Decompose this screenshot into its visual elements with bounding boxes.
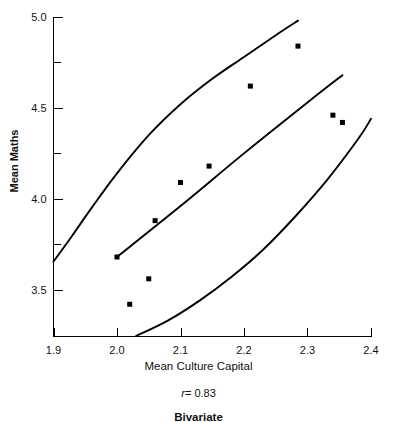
correlation-annotation: r= 0.83	[0, 387, 397, 399]
fitted-curves	[54, 21, 372, 336]
data-point	[146, 276, 151, 281]
scatter-plot-figure: 5.04.54.03.5 1.92.02.12.22.32.4 Mean Mat…	[0, 0, 397, 422]
data-point	[340, 120, 345, 125]
x-tick-label: 2.1	[173, 344, 188, 356]
axes	[53, 17, 371, 337]
figure-caption: Bivariate	[0, 411, 397, 422]
data-point	[115, 255, 120, 260]
data-point	[295, 44, 300, 49]
lower-confidence-band	[136, 119, 371, 336]
y-tick-label: 4.0	[31, 193, 46, 205]
data-point	[207, 164, 212, 169]
data-point	[248, 84, 253, 89]
x-tick-label: 2.0	[109, 344, 124, 356]
x-axis-ticks	[55, 328, 372, 337]
upper-confidence-band	[54, 21, 298, 262]
y-axis-title: Mean Maths	[8, 119, 20, 203]
y-axis-tick-labels: 5.04.54.03.5	[31, 11, 46, 296]
plot-canvas: 5.04.54.03.5 1.92.02.12.22.32.4	[0, 0, 397, 422]
data-point-markers	[115, 44, 345, 307]
x-tick-label: 2.3	[300, 344, 315, 356]
y-tick-label: 3.5	[31, 284, 46, 296]
x-tick-label: 2.4	[363, 344, 378, 356]
regression-line	[117, 75, 342, 257]
x-tick-label: 2.2	[236, 344, 251, 356]
y-tick-label: 4.5	[31, 102, 46, 114]
data-point	[127, 302, 132, 307]
data-point	[153, 218, 158, 223]
x-tick-label: 1.9	[46, 344, 61, 356]
x-axis-title: Mean Culture Capital	[0, 360, 397, 372]
y-tick-label: 5.0	[31, 11, 46, 23]
data-point	[178, 180, 183, 185]
data-point	[330, 113, 335, 118]
correlation-equals: =	[185, 387, 191, 399]
correlation-value: 0.83	[194, 387, 215, 399]
x-axis-tick-labels: 1.92.02.12.22.32.4	[46, 344, 379, 356]
